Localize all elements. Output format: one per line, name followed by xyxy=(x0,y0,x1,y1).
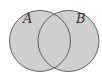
set-b-label: B xyxy=(75,11,86,26)
set-a-label: A xyxy=(22,11,32,26)
venn-diagram: A B xyxy=(0,0,102,76)
